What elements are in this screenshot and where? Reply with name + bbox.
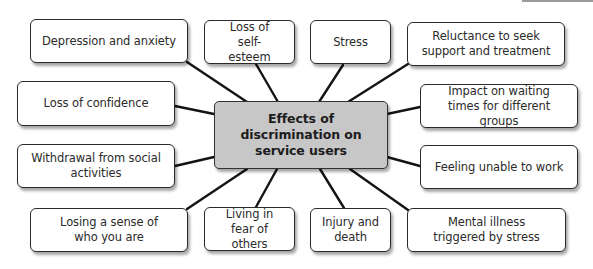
link-confidence xyxy=(175,106,214,114)
link-injury xyxy=(320,169,344,208)
node-label: Mental illness triggered by stress xyxy=(424,215,549,245)
node-label: Impact on waiting times for different gr… xyxy=(437,84,561,129)
link-unable-to-work xyxy=(387,157,420,166)
node-label: Loss of confidence xyxy=(44,96,149,111)
node-label: Living in fear of others xyxy=(213,207,286,252)
node-fear: Living in fear of others xyxy=(204,207,295,251)
link-waiting-times xyxy=(387,107,420,114)
node-withdrawal: Withdrawal from social activities xyxy=(17,144,175,188)
link-fear xyxy=(256,169,277,207)
node-depression: Depression and anxiety xyxy=(30,19,188,63)
node-label: Withdrawal from social activities xyxy=(24,151,168,181)
node-label: Depression and anxiety xyxy=(42,34,176,49)
node-unable-to-work: Feeling unable to work xyxy=(420,145,578,189)
link-reluctance xyxy=(348,64,408,102)
node-label: Loss of self-esteem xyxy=(219,20,280,65)
central-topic-label: Effects of discrimination on service use… xyxy=(233,111,369,159)
node-injury: Injury and death xyxy=(310,208,391,252)
node-label: Feeling unable to work xyxy=(435,160,563,175)
node-stress: Stress xyxy=(310,20,391,64)
node-label: Reluctance to seek support and treatment xyxy=(414,29,558,59)
link-depression xyxy=(187,62,247,102)
node-label: Injury and death xyxy=(321,215,380,245)
node-confidence: Loss of confidence xyxy=(17,81,175,126)
link-withdrawal xyxy=(175,157,214,166)
node-mental-illness: Mental illness triggered by stress xyxy=(407,208,566,252)
link-sense-of-self xyxy=(187,169,247,209)
link-stress xyxy=(319,65,343,102)
node-reluctance: Reluctance to seek support and treatment xyxy=(407,22,565,66)
link-self-esteem xyxy=(256,64,278,102)
node-waiting-times: Impact on waiting times for different gr… xyxy=(420,84,578,128)
mind-map-diagram: Effects of discrimination on service use… xyxy=(0,0,593,269)
node-label: Stress xyxy=(333,35,368,50)
node-sense-of-self: Losing a sense of who you are xyxy=(30,208,188,252)
central-topic: Effects of discrimination on service use… xyxy=(214,101,388,169)
node-self-esteem: Loss of self-esteem xyxy=(204,20,295,64)
node-label: Losing a sense of who you are xyxy=(49,215,169,245)
link-mental-illness xyxy=(350,169,408,210)
